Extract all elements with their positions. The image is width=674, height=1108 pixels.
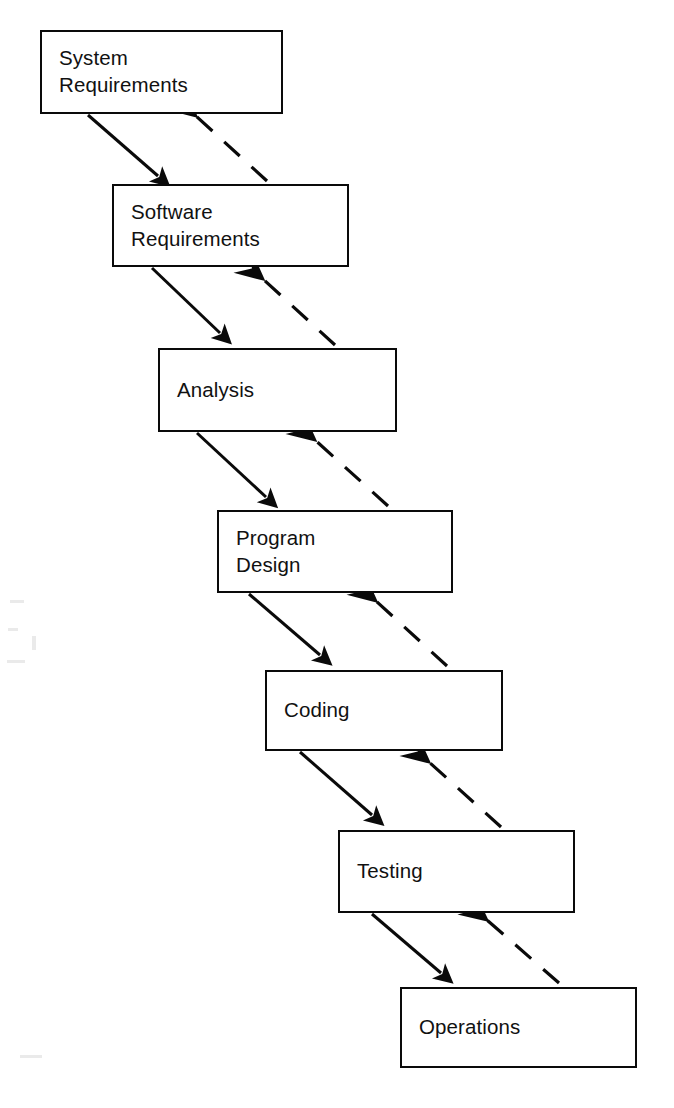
stage-box-coding[interactable]: Coding [265,670,503,751]
stage-box-operations[interactable]: Operations [400,987,637,1068]
stage-label-analysis: Analysis [160,377,254,404]
stage-label-system-requirements: System Requirements [42,45,188,98]
feedback-testing-to-coding [429,762,501,827]
stage-label-coding: Coding [267,697,350,724]
arrow-testing-to-operations [372,914,441,973]
arrow-software-to-analysis [152,268,220,333]
arrow-program-design-to-coding [249,594,320,655]
feedback-program-design-to-analysis [315,440,388,506]
stage-label-testing: Testing [340,858,423,885]
arrow-coding-to-testing [300,752,372,815]
feedback-analysis-to-software [263,279,335,345]
arrow-analysis-to-program-design [197,433,266,497]
stage-box-system-requirements[interactable]: System Requirements [40,30,283,114]
stage-box-software-requirements[interactable]: Software Requirements [112,184,349,267]
stage-box-analysis[interactable]: Analysis [158,348,397,432]
feedback-operations-to-testing [487,920,559,983]
stage-box-program-design[interactable]: Program Design [217,510,453,593]
arrow-system-to-software [88,115,158,176]
stage-box-testing[interactable]: Testing [338,830,575,913]
feedback-coding-to-program-design [376,601,447,666]
stage-label-software-requirements: Software Requirements [114,199,260,252]
stage-label-program-design: Program Design [219,525,315,578]
waterfall-diagram: System RequirementsSoftware Requirements… [0,0,674,1108]
stage-label-operations: Operations [402,1014,520,1041]
feedback-software-to-system [196,116,267,181]
